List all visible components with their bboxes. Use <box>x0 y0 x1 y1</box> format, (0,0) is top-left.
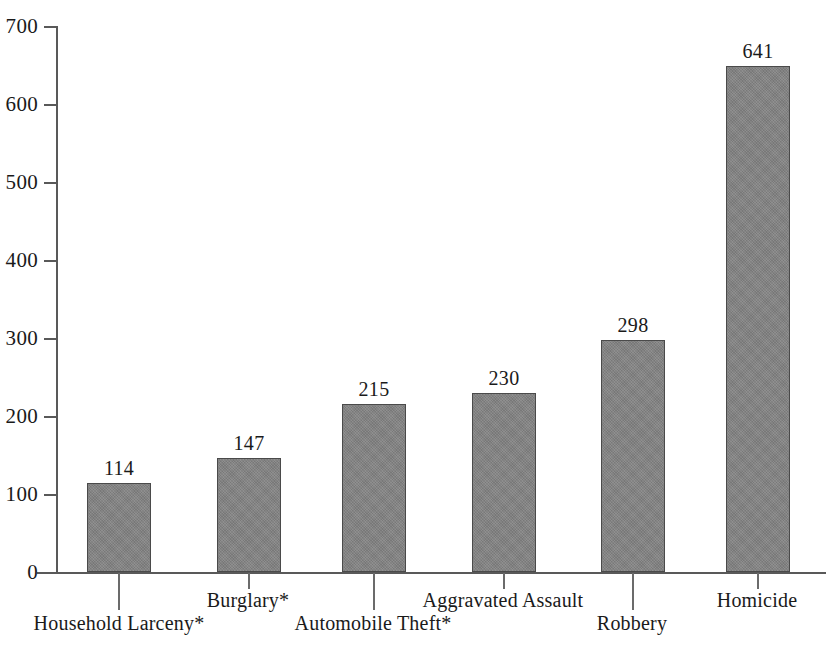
bar-homicide <box>726 66 790 572</box>
x-label-household-larceny: Household Larceny* <box>0 613 244 634</box>
x-label-aggravated-assault: Aggravated Assault <box>398 590 608 611</box>
y-tick-mark-300 <box>44 338 57 340</box>
bar-value-aggravated-assault: 230 <box>464 368 544 388</box>
y-tick-mark-100 <box>44 494 57 496</box>
y-tick-label-300: 300 <box>0 328 38 349</box>
y-axis-line <box>56 26 58 574</box>
y-tick-mark-600 <box>44 104 57 106</box>
x-label-robbery: Robbery <box>557 613 707 634</box>
bar-household-larceny <box>87 483 151 572</box>
y-tick-mark-400 <box>44 260 57 262</box>
x-label-burglary: Burglary* <box>173 590 323 611</box>
y-tick-label-600: 600 <box>0 94 38 115</box>
y-tick-mark-700 <box>44 26 57 28</box>
bar-value-burglary: 147 <box>209 433 289 453</box>
bar-value-homicide: 641 <box>718 41 798 61</box>
x-tick-mark-homicide <box>757 573 759 589</box>
bar-value-household-larceny: 114 <box>79 458 159 478</box>
y-tick-mark-200 <box>44 416 57 418</box>
y-tick-label-700: 700 <box>0 16 38 37</box>
bar-aggravated-assault <box>472 393 536 572</box>
y-tick-label-200: 200 <box>0 406 38 427</box>
bar-value-robbery: 298 <box>593 315 673 335</box>
y-tick-label-0: 0 <box>0 562 38 583</box>
y-tick-label-100: 100 <box>0 484 38 505</box>
y-tick-label-500: 500 <box>0 172 38 193</box>
x-tick-mark-burglary <box>248 573 250 589</box>
y-tick-label-400: 400 <box>0 250 38 271</box>
x-label-automobile-theft: Automobile Theft* <box>268 613 478 634</box>
bar-robbery <box>601 340 665 572</box>
x-tick-mark-aggravated-assault <box>503 573 505 589</box>
y-tick-mark-0 <box>44 572 57 574</box>
x-tick-mark-household-larceny <box>118 573 120 610</box>
bar-automobile-theft <box>342 404 406 572</box>
x-tick-mark-robbery <box>632 573 634 610</box>
y-tick-mark-500 <box>44 182 57 184</box>
x-label-homicide: Homicide <box>682 590 832 611</box>
bar-burglary <box>217 458 281 572</box>
x-tick-mark-automobile-theft <box>373 573 375 610</box>
bar-chart: 0 100 200 300 400 500 600 700 114 Househ… <box>0 0 836 654</box>
bar-value-automobile-theft: 215 <box>334 379 414 399</box>
x-axis-line <box>37 572 826 574</box>
